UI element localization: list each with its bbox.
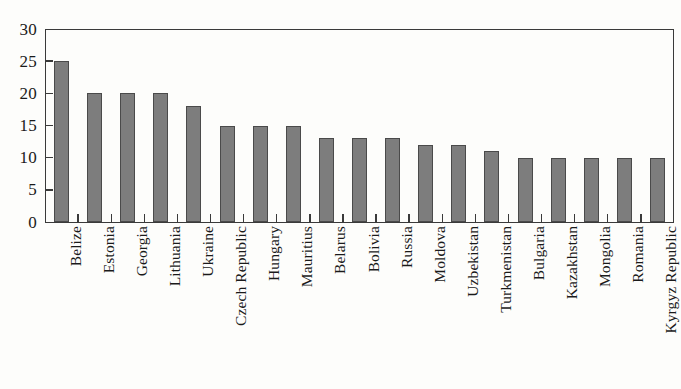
x-axis-category-labels: BelizeEstoniaGeorgiaLithuaniaUkraineCzec…: [45, 226, 674, 389]
bar: [319, 138, 334, 222]
bar: [617, 158, 632, 222]
x-axis-category-label: Mongolia: [597, 226, 613, 287]
bar: [153, 93, 168, 222]
x-axis-category-label: Lithuania: [167, 226, 183, 286]
x-axis-category-label: Georgia: [134, 226, 150, 276]
x-axis-category-label: Uzbekistan: [465, 226, 481, 297]
bar: [451, 145, 466, 222]
y-axis-tick-label: 0: [28, 214, 37, 231]
x-axis-category-label: Kyrgyz Republic: [663, 226, 679, 334]
y-axis-tick-label: 10: [20, 149, 37, 166]
y-axis-tick-labels: 051015202530: [0, 0, 44, 389]
bar: [220, 126, 235, 223]
x-axis-category-label: Czech Republic: [233, 226, 249, 326]
bar: [120, 93, 135, 222]
bar: [518, 158, 533, 222]
x-axis-category-label: Belize: [68, 226, 84, 266]
bars-container: [45, 29, 674, 222]
bar: [54, 61, 69, 222]
x-axis-category-label: Kazakhstan: [564, 226, 580, 299]
bar: [584, 158, 599, 222]
bar: [484, 151, 499, 222]
x-axis-category-label: Belarus: [332, 226, 348, 274]
x-axis-category-label: Hungary: [266, 226, 282, 281]
y-axis-tick-label: 30: [20, 21, 37, 38]
x-axis-category-label: Bulgaria: [531, 226, 547, 280]
x-axis-category-label: Turkmenistan: [498, 226, 514, 313]
x-axis-category-label: Moldova: [432, 226, 448, 283]
y-axis-tick-label: 5: [28, 181, 37, 198]
bar: [253, 126, 268, 223]
x-axis-category-label: Mauritius: [299, 226, 315, 287]
x-axis-category-label: Ukraine: [200, 226, 216, 277]
bar: [551, 158, 566, 222]
bar: [650, 158, 665, 222]
y-axis-tick-label: 15: [20, 117, 37, 134]
bar-chart: 051015202530 BelizeEstoniaGeorgiaLithuan…: [0, 0, 681, 389]
bar: [385, 138, 400, 222]
bar: [418, 145, 433, 222]
x-axis-category-label: Estonia: [101, 226, 117, 273]
x-axis-category-label: Romania: [630, 226, 646, 283]
y-axis-tick-label: 20: [20, 85, 37, 102]
x-axis-category-label: Bolivia: [366, 226, 382, 272]
x-axis-category-label: Russia: [399, 226, 415, 268]
bar: [186, 106, 201, 222]
bar: [352, 138, 367, 222]
bar: [87, 93, 102, 222]
bar: [286, 126, 301, 223]
y-axis-tick-label: 25: [20, 53, 37, 70]
